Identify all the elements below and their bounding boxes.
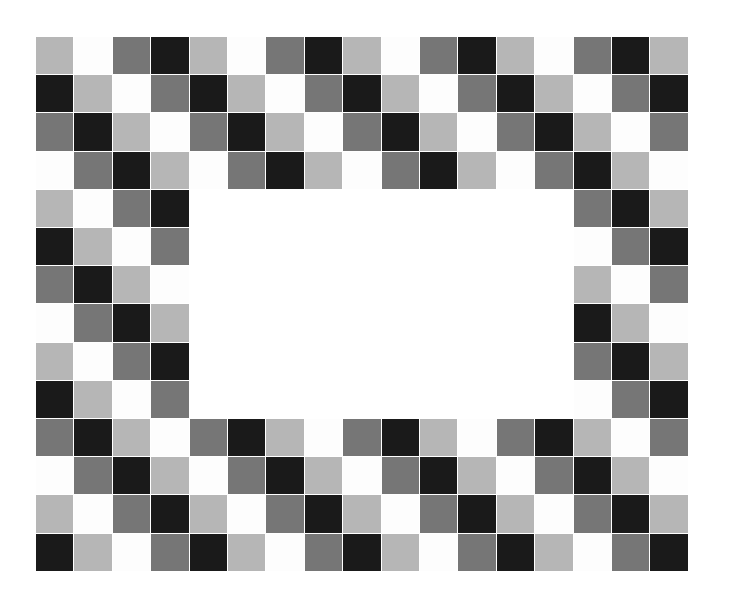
mosaic-cell bbox=[266, 534, 303, 571]
mosaic-cell bbox=[266, 457, 303, 494]
mosaic-cell bbox=[382, 534, 419, 571]
mosaic-cell bbox=[612, 495, 649, 532]
mosaic-cell bbox=[151, 419, 188, 456]
mosaic-cell bbox=[266, 495, 303, 532]
mosaic-cell bbox=[574, 75, 611, 112]
mosaic-cell bbox=[343, 75, 380, 112]
mosaic-cell bbox=[650, 37, 687, 74]
mosaic-cell bbox=[151, 266, 188, 303]
mosaic-cell bbox=[343, 457, 380, 494]
mosaic-cell bbox=[650, 534, 687, 571]
mosaic-cell bbox=[151, 343, 188, 380]
mosaic-cell bbox=[343, 152, 380, 189]
mosaic-cell bbox=[228, 37, 265, 74]
mosaic-cell bbox=[612, 343, 649, 380]
mosaic-cell bbox=[343, 113, 380, 150]
mosaic-cell bbox=[382, 457, 419, 494]
mosaic-cell bbox=[343, 37, 380, 74]
mosaic-cell bbox=[151, 304, 188, 341]
mosaic-cell bbox=[574, 534, 611, 571]
mosaic-cell bbox=[36, 190, 73, 227]
mosaic-cell bbox=[113, 495, 150, 532]
mosaic-cell bbox=[650, 343, 687, 380]
mosaic-cell bbox=[497, 113, 534, 150]
mosaic-cell bbox=[36, 37, 73, 74]
mosaic-cell bbox=[36, 495, 73, 532]
mosaic-cell bbox=[113, 534, 150, 571]
artwork-canvas bbox=[0, 0, 743, 601]
mosaic-cell bbox=[151, 37, 188, 74]
mosaic-cell bbox=[266, 113, 303, 150]
mosaic-cell bbox=[612, 381, 649, 418]
mosaic-cell bbox=[650, 190, 687, 227]
mosaic-cell bbox=[574, 266, 611, 303]
mosaic-cell bbox=[612, 113, 649, 150]
mosaic-cell bbox=[305, 37, 342, 74]
mosaic-cell bbox=[420, 152, 457, 189]
mosaic-cell bbox=[113, 419, 150, 456]
mosaic-cell bbox=[650, 381, 687, 418]
mosaic-cell bbox=[36, 266, 73, 303]
mosaic-cell bbox=[382, 37, 419, 74]
mosaic-cell bbox=[497, 75, 534, 112]
mosaic-cell bbox=[343, 419, 380, 456]
mosaic-cell bbox=[382, 495, 419, 532]
mosaic-cell bbox=[36, 152, 73, 189]
mosaic-cell bbox=[650, 113, 687, 150]
mosaic-cell bbox=[497, 457, 534, 494]
mosaic-cell bbox=[420, 534, 457, 571]
mosaic-cell bbox=[74, 75, 111, 112]
mosaic-cell bbox=[113, 37, 150, 74]
mosaic-cell bbox=[612, 304, 649, 341]
mosaic-cell bbox=[190, 495, 227, 532]
mosaic-cell bbox=[574, 304, 611, 341]
mosaic-cell bbox=[190, 419, 227, 456]
mosaic-cell bbox=[113, 113, 150, 150]
mosaic-cell bbox=[535, 37, 572, 74]
mosaic-cell bbox=[151, 152, 188, 189]
mosaic-cell bbox=[190, 75, 227, 112]
mosaic-cell bbox=[228, 495, 265, 532]
mosaic-cell bbox=[113, 152, 150, 189]
mosaic-cell bbox=[574, 190, 611, 227]
mosaic-cell bbox=[151, 190, 188, 227]
mosaic-cell bbox=[535, 152, 572, 189]
mosaic-cell bbox=[74, 534, 111, 571]
mosaic-cell bbox=[151, 381, 188, 418]
mosaic-cell bbox=[650, 266, 687, 303]
mosaic-cell bbox=[535, 457, 572, 494]
mosaic-cell bbox=[458, 113, 495, 150]
mosaic-cell bbox=[74, 419, 111, 456]
mosaic-cell bbox=[190, 534, 227, 571]
mosaic-cell bbox=[36, 534, 73, 571]
mosaic-cell bbox=[497, 37, 534, 74]
mosaic-cell bbox=[74, 343, 111, 380]
mosaic-cell bbox=[113, 190, 150, 227]
mosaic-cell bbox=[574, 37, 611, 74]
mosaic-cell bbox=[113, 228, 150, 265]
mosaic-cell bbox=[574, 343, 611, 380]
mosaic-cell bbox=[574, 113, 611, 150]
mosaic-cell bbox=[458, 534, 495, 571]
mosaic-cell bbox=[113, 381, 150, 418]
mosaic-cell bbox=[535, 113, 572, 150]
mosaic-cell bbox=[650, 75, 687, 112]
mosaic-cell bbox=[612, 75, 649, 112]
mosaic-cell bbox=[650, 457, 687, 494]
mosaic-cell bbox=[228, 152, 265, 189]
mosaic-cell bbox=[74, 37, 111, 74]
mosaic-cell bbox=[574, 152, 611, 189]
mosaic-cell bbox=[650, 304, 687, 341]
mosaic-cell bbox=[497, 534, 534, 571]
mosaic-cell bbox=[574, 495, 611, 532]
mosaic-cell bbox=[151, 75, 188, 112]
mosaic-cell bbox=[343, 495, 380, 532]
mosaic-cell bbox=[74, 495, 111, 532]
mosaic-cell bbox=[190, 457, 227, 494]
mosaic-cell bbox=[497, 152, 534, 189]
mosaic-cell bbox=[612, 228, 649, 265]
mosaic-cell bbox=[190, 37, 227, 74]
mosaic-cell bbox=[190, 152, 227, 189]
mosaic-cell bbox=[420, 457, 457, 494]
mosaic-cell bbox=[151, 228, 188, 265]
